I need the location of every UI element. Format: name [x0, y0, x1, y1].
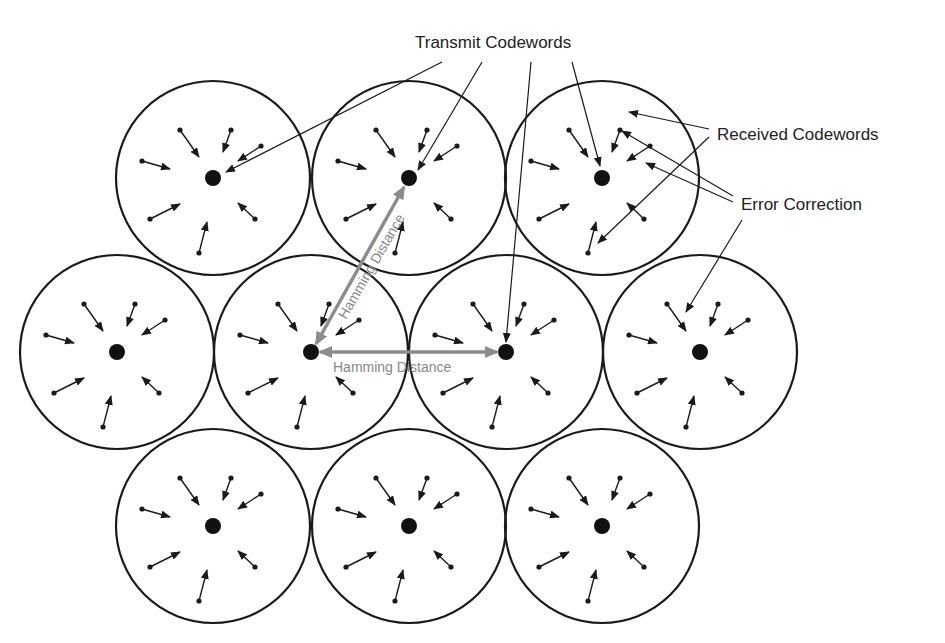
received-codeword-vector [528, 158, 559, 169]
received-codeword-vector [294, 396, 305, 430]
received-codeword-vector [536, 204, 569, 222]
received-codeword-vector [710, 301, 721, 326]
received-codeword-vector [725, 377, 745, 396]
received-codewords-label: Received Codewords [717, 125, 879, 145]
received-codeword-vector [432, 332, 463, 343]
received-codeword-vector [196, 222, 207, 256]
received-codeword-vector [725, 317, 751, 335]
hamming-horizontal-label: Hamming Distance [333, 359, 451, 375]
received-codeword-vector [238, 551, 258, 570]
received-codeword-vector [531, 377, 551, 396]
received-codeword-vector [566, 475, 588, 505]
received-codeword-vector [627, 491, 653, 509]
transmit-codeword-dot [205, 518, 221, 534]
transmit-codeword-dot [692, 344, 708, 360]
transmit-codeword-dot [594, 518, 610, 534]
received-codeword-vector [335, 506, 366, 517]
received-codeword-vector [51, 378, 84, 396]
received-codeword-vector [238, 491, 264, 509]
received-codeword-vector [139, 506, 170, 517]
received-codeword-vector [237, 332, 268, 343]
received-codeword-vector [627, 551, 647, 570]
received-codeword-vector [536, 552, 569, 570]
received-codeword-vector [245, 378, 278, 396]
received-codeword-vector [142, 317, 168, 335]
received-codeword-vector [100, 396, 111, 430]
received-codeword-vector [43, 332, 74, 343]
received-codeword-vector [419, 475, 430, 500]
received-codeword-vector [489, 396, 500, 430]
received-codeword-vector [147, 204, 180, 222]
received-codeword-vector [434, 551, 454, 570]
transmit-codewords-label: Transmit Codewords [415, 33, 571, 53]
received-codeword-vector [566, 127, 588, 157]
received-codeword-vector [127, 301, 138, 326]
transmit-leader-lines [226, 62, 600, 342]
received-codeword-vector [373, 475, 395, 505]
hamming-distance-diagram: Hamming Distance Hamming Distance [0, 0, 945, 643]
received-codeword-vector [612, 127, 623, 152]
transmit-codeword-dot [401, 518, 417, 534]
received-codeword-vector [392, 570, 403, 604]
received-codeword-vector [147, 552, 180, 570]
received-codeword-vector [196, 570, 207, 604]
transmit-codeword-dot [205, 170, 221, 186]
received-codeword-vector [683, 396, 694, 430]
received-codeword-vector [177, 475, 199, 505]
received-codeword-vector [531, 317, 557, 335]
received-codeword-vector [275, 301, 297, 331]
received-codeword-vector [612, 475, 623, 500]
error-correction-leader-lines [622, 131, 742, 312]
received-codeword-vector [81, 301, 103, 331]
received-codeword-vector [373, 127, 395, 157]
received-codeword-vector [626, 332, 657, 343]
received-codeword-vector [434, 491, 460, 509]
hamming-distance-arrows [316, 187, 497, 352]
received-codeword-vector [238, 143, 264, 161]
received-codeword-vector [664, 301, 686, 331]
received-codeword-vector [343, 204, 376, 222]
received-codeword-vector [585, 570, 596, 604]
received-codeword-vector [434, 143, 460, 161]
received-codeword-vector [585, 222, 596, 256]
transmit-codeword-dot [594, 170, 610, 186]
received-codeword-vector [223, 475, 234, 500]
transmit-codeword-dot [109, 344, 125, 360]
received-codeword-vector [142, 377, 162, 396]
received-codeword-vector [238, 203, 258, 222]
received-codeword-vector [335, 158, 366, 169]
received-codeword-vector [440, 378, 473, 396]
received-codeword-vector [528, 506, 559, 517]
received-codeword-vector [177, 127, 199, 157]
received-codeword-vector [419, 127, 430, 152]
error-correction-label: Error Correction [741, 195, 862, 215]
received-codeword-vector [434, 203, 454, 222]
transmit-codeword-dot [401, 170, 417, 186]
received-codeword-vector [343, 552, 376, 570]
transmit-codeword-dot [498, 344, 514, 360]
received-codeword-vector [634, 378, 667, 396]
received-codeword-vector [223, 127, 234, 152]
received-leader-lines [598, 112, 709, 243]
transmit-codeword-dot [303, 344, 319, 360]
received-codeword-vector [470, 301, 492, 331]
received-codeword-vector [336, 377, 356, 396]
received-codeword-vector [139, 158, 170, 169]
received-codeword-vector [516, 301, 527, 326]
